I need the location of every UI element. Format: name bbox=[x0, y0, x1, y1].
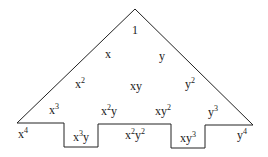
monomial-x2y: x2y bbox=[101, 105, 117, 117]
monomial-x3: x3 bbox=[49, 104, 59, 116]
monomial-xy2: xy2 bbox=[155, 105, 171, 117]
monomial-y2: y2 bbox=[185, 78, 195, 90]
monomial-xy3: xy3 bbox=[180, 132, 196, 144]
monomial-x2y2: x2y2 bbox=[125, 129, 145, 141]
monomial-x: x bbox=[105, 48, 111, 60]
monomial-y: y bbox=[159, 50, 165, 62]
monomial-y3: y3 bbox=[208, 106, 218, 118]
monomial-1: 1 bbox=[132, 24, 138, 36]
monomial-x3y: x3y bbox=[73, 131, 89, 143]
monomial-x2: x2 bbox=[75, 78, 85, 90]
monomial-x4: x4 bbox=[18, 128, 28, 140]
monomial-y4: y4 bbox=[237, 129, 247, 141]
monomial-xy: xy bbox=[130, 80, 142, 92]
